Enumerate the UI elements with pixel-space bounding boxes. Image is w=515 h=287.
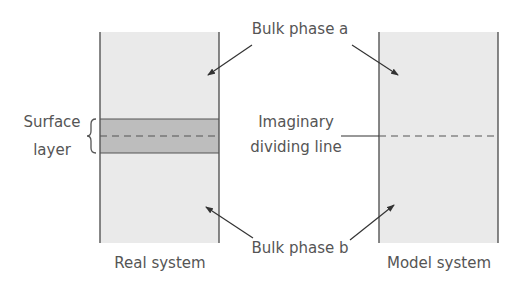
label-imaginary: Imaginary [258,115,334,130]
label-layer: layer [33,143,71,158]
label-bulk-phase-a: Bulk phase a [252,22,349,37]
label-dividing-line: dividing line [250,140,341,155]
brace-icon [87,119,96,153]
real-system-box [100,32,219,243]
label-bulk-phase-b: Bulk phase b [252,241,349,256]
label-surface: Surface [23,115,80,130]
surface-model-diagram: Bulk phase a Bulk phase b Surface layer … [0,0,515,287]
label-model-system: Model system [387,256,491,271]
model-system-box [379,32,498,243]
label-real-system: Real system [114,256,205,271]
